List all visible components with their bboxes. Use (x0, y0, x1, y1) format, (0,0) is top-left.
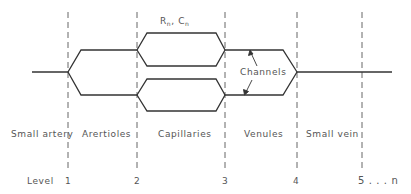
vessel-network (32, 33, 392, 111)
separator: , (171, 16, 174, 26)
segment-label-arterioles: Arertioles (82, 130, 131, 139)
segment-label-small-vein: Small vein (306, 130, 359, 139)
arrow-up-line (251, 53, 257, 66)
capacitance-subscript: n (185, 20, 189, 27)
segment-label-small-artery: Small artery (11, 130, 73, 139)
arrow-down-line (246, 80, 252, 92)
arteriole-upper (68, 50, 137, 72)
arrow-up-head (249, 50, 254, 56)
segment-label-venules: Venules (244, 130, 283, 139)
capillary-1 (137, 33, 225, 50)
rc-annotation: Rn, Cn (160, 17, 190, 27)
capillary-3 (137, 79, 225, 95)
level-5-n: 5 . . . n (358, 176, 398, 186)
level-2: 2 (134, 177, 140, 186)
arteriole-lower (68, 72, 137, 95)
level-4: 4 (293, 177, 299, 186)
channels-label: Channels (240, 68, 286, 77)
level-1: 1 (65, 177, 71, 186)
resistance-symbol: R (160, 16, 167, 26)
level-title: Level (27, 177, 54, 186)
segment-label-capillaries: Capillaries (158, 130, 212, 139)
vascular-diagram (0, 0, 411, 194)
capillary-4 (137, 95, 225, 111)
capillary-2 (137, 50, 225, 66)
level-dividers (68, 12, 362, 168)
level-3: 3 (222, 177, 228, 186)
arrow-down-head (244, 90, 249, 96)
